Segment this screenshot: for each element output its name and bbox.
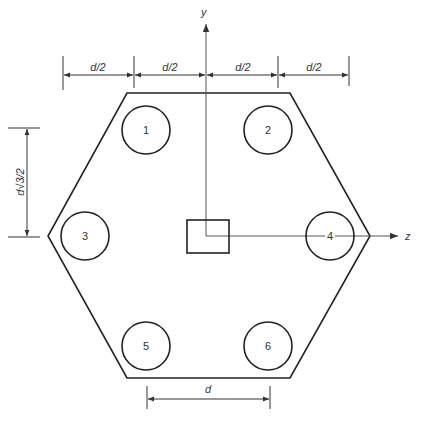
- svg-text:5: 5: [143, 340, 149, 352]
- left-dim-label: d√3/2: [14, 168, 26, 195]
- svg-text:6: 6: [265, 340, 271, 352]
- svg-text:1: 1: [143, 124, 149, 136]
- top-dim-label-4: d/2: [306, 61, 321, 73]
- z-axis-label: z: [404, 230, 411, 242]
- pile-1: 1: [122, 106, 170, 154]
- top-dim-label-2: d/2: [162, 61, 177, 73]
- svg-text:3: 3: [82, 230, 88, 242]
- pile-3: 3: [61, 212, 109, 260]
- y-axis-label: y: [200, 6, 208, 18]
- pile-5: 5: [122, 322, 170, 370]
- pile-cap-diagram: y z 1 2 3 4 5 6 d/2 d/2 d/2: [0, 0, 421, 422]
- svg-text:4: 4: [327, 230, 333, 242]
- pile-2: 2: [244, 106, 292, 154]
- bottom-dim-label: d: [205, 383, 212, 395]
- top-dim-label-1: d/2: [90, 61, 105, 73]
- pile-6: 6: [244, 322, 292, 370]
- top-dim-label-3: d/2: [235, 61, 250, 73]
- svg-text:2: 2: [265, 124, 271, 136]
